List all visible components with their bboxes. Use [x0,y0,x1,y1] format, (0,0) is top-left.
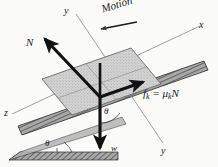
theta-incline-label: θ [45,139,49,148]
theta-incline-arc [64,142,72,152]
theta-inner-label: θ [104,107,108,116]
normal-force-label: N [26,37,33,48]
weight-force-label: w [111,144,117,153]
diagram-canvas [0,0,218,167]
axis-label-y-bottom: y [161,146,165,156]
friction-N: N [172,87,179,99]
physics-diagram-inclined-plane: y x z y N w fk = μkN Motion θ θ [0,0,218,167]
motion-arrow [101,22,137,29]
axis-label-x-right: x [199,20,203,30]
friction-equals: = [150,87,163,99]
axis-label-y-top: y [64,6,68,16]
friction-force-label: fk = μkN [143,88,179,101]
axis-label-z-left: z [4,108,8,118]
